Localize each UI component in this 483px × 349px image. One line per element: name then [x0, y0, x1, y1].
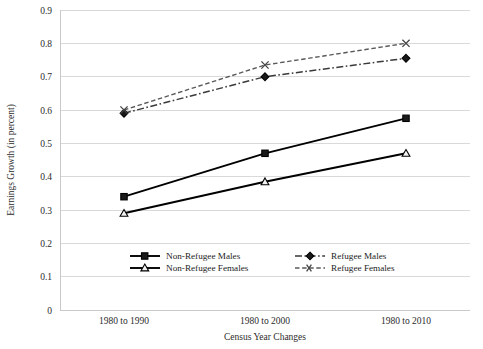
diamond-marker-icon	[306, 252, 314, 260]
y-tick-label: 0.7	[40, 72, 52, 82]
earnings-growth-line-chart: 0.9 0.8 0.7 0.6 0.5 0.4 0.3 0.2 0.1 0 Ea…	[0, 0, 483, 349]
x-tick-label: 1980 to 2010	[381, 316, 431, 326]
square-marker-icon	[121, 194, 127, 200]
legend: Non-Refugee Males Non-Refugee Females Re…	[130, 251, 395, 273]
y-tick-label: 0.4	[40, 172, 52, 182]
legend-label: Refugee Females	[331, 263, 395, 273]
legend-label: Refugee Males	[331, 251, 387, 261]
legend-item-refugee-females[interactable]: Refugee Females	[295, 263, 395, 273]
series-line	[124, 58, 406, 113]
x-axis-title: Census Year Changes	[224, 332, 306, 342]
series-layer	[120, 40, 410, 217]
series-non-refugee-females	[120, 150, 410, 217]
chart-svg: 0.9 0.8 0.7 0.6 0.5 0.4 0.3 0.2 0.1 0 Ea…	[0, 0, 483, 349]
series-refugee-males	[120, 54, 410, 117]
square-marker-icon	[262, 150, 268, 156]
legend-item-non-refugee-males[interactable]: Non-Refugee Males	[130, 251, 241, 261]
y-tick-label: 0.1	[40, 272, 52, 282]
square-marker-icon	[142, 253, 148, 259]
legend-item-refugee-males[interactable]: Refugee Males	[295, 251, 387, 261]
y-tick-label: 0.5	[40, 139, 52, 149]
diamond-marker-icon	[402, 54, 410, 62]
gridlines	[60, 10, 470, 277]
x-tick-labels: 1980 to 1990 1980 to 2000 1980 to 2010	[99, 316, 431, 326]
square-marker-icon	[403, 115, 409, 121]
y-tick-label: 0.9	[40, 6, 52, 16]
y-tick-label: 0.3	[40, 206, 52, 216]
x-tick-label: 1980 to 2000	[240, 316, 290, 326]
y-tick-label: 0.8	[40, 39, 52, 49]
y-tick-label: 0.2	[40, 239, 52, 249]
legend-label: Non-Refugee Females	[166, 263, 249, 273]
y-tick-labels: 0.9 0.8 0.7 0.6 0.5 0.4 0.3 0.2 0.1 0	[40, 6, 52, 316]
legend-label: Non-Refugee Males	[166, 251, 241, 261]
legend-item-non-refugee-females[interactable]: Non-Refugee Females	[130, 263, 249, 273]
series-non-refugee-males	[121, 115, 409, 200]
y-tick-label: 0.6	[40, 106, 52, 116]
y-tick-label: 0	[47, 306, 52, 316]
x-tick-label: 1980 to 1990	[99, 316, 149, 326]
diamond-marker-icon	[261, 73, 269, 81]
y-axis-title: Earnings Growth (in percent)	[6, 104, 17, 216]
